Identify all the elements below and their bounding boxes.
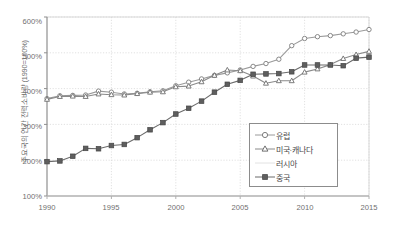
circle-marker-icon xyxy=(254,129,276,141)
legend-label: 유럽 xyxy=(276,130,290,141)
x-tick-label: 2015 xyxy=(349,203,389,212)
x-tick-label: 1990 xyxy=(27,203,67,212)
x-tick-label: 2005 xyxy=(220,203,260,212)
x-tick-label: 2000 xyxy=(156,203,196,212)
legend-item-russia[interactable]: 러시아 xyxy=(250,156,337,170)
legend-item-europe[interactable]: 유럽 xyxy=(250,128,337,142)
legend-label: 중국 xyxy=(276,172,290,183)
legend-label: 러시아 xyxy=(276,158,296,169)
chart-legend: 유럽 미국·캐나다 러시아 xyxy=(249,123,338,187)
legend-item-china[interactable]: 중국 xyxy=(250,170,337,184)
triangle-marker-icon xyxy=(254,143,276,155)
x-axis-tick-labels: 1990 1995 2000 2005 2010 2015 xyxy=(0,0,395,233)
legend-label: 미국·캐나다 xyxy=(276,144,312,155)
blank-marker-icon xyxy=(254,157,276,169)
x-tick-label: 1995 xyxy=(91,203,131,212)
chart-figure: 주요국의 연간 전력소비량 (1990=100%) 100% 200% 300%… xyxy=(0,0,395,233)
x-tick-label: 2010 xyxy=(285,203,325,212)
legend-item-usa-canada[interactable]: 미국·캐나다 xyxy=(250,142,337,156)
square-marker-icon xyxy=(254,171,276,183)
